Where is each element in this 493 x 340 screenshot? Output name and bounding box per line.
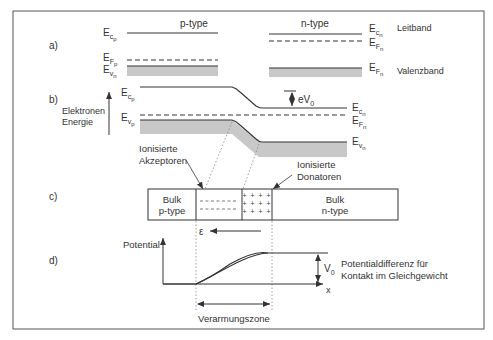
n-ec-label: Ecn [369, 23, 383, 38]
ecp-label: Ecp [121, 87, 135, 102]
label-d: d) [49, 255, 58, 266]
bulk-p-label-1: Bulk [163, 194, 182, 205]
efn-label: EFn [352, 115, 366, 130]
p-valence-band [127, 66, 218, 76]
field-symbol: ε [199, 226, 204, 237]
p-ec-label: Ecp [103, 27, 117, 42]
x-axis-label: x [326, 285, 331, 295]
pn-junction-diagram: a) p-type n-type Ecp EFp Evn Ecn EFn EFn… [0, 0, 493, 340]
panel-c: c) Bulk p-type Bulk n-type + + + + + + +… [49, 189, 398, 237]
n-type-title: n-type [301, 18, 329, 29]
valenzband-label: Valenzband [397, 66, 444, 76]
donatoren-label-2: Donatoren [297, 171, 341, 182]
akzeptoren-label-1: Ionisierte [139, 143, 178, 154]
n-valence-band [269, 68, 362, 77]
n-ef-label: EFn [369, 37, 383, 52]
donatoren-pointer [273, 175, 292, 189]
label-a: a) [49, 40, 58, 51]
bulk-p-label-2: p-type [159, 205, 185, 216]
bent-conduction-band [140, 87, 347, 108]
junction-block [148, 189, 398, 220]
donor-charges-row-3: + + + + [242, 208, 271, 215]
panel-a: a) p-type n-type Ecp EFp Evn Ecn EFn EFn… [49, 18, 444, 79]
evp-label: Evp [121, 112, 135, 127]
bulk-n-label-2: n-type [322, 205, 348, 216]
energy-axis-label-2: Energie [62, 117, 93, 127]
depletion-zone-label: Verarmungszone [198, 313, 270, 324]
akzeptoren-pointer [186, 160, 203, 189]
n-ev-label: EFn [369, 62, 383, 77]
donor-charges-row-1: + + + + [242, 192, 271, 199]
energy-axis-label-1: Elektronen [62, 106, 105, 116]
potential-curve [163, 252, 328, 284]
p-type-title: p-type [180, 18, 208, 29]
bulk-n-label-1: Bulk [326, 194, 345, 205]
potential-diff-desc-1: Potentialdifferenz für [341, 258, 428, 269]
label-c: c) [49, 191, 57, 202]
donor-charges-row-2: + + + + [242, 200, 271, 207]
potential-diff-desc-2: Kontakt im Gleichgewicht [341, 270, 448, 281]
panel-b: b) Elektronen Energie eV0 Ecp Evp Ecn EF… [49, 87, 366, 189]
potential-axis-label: Potential [123, 239, 160, 250]
v0-label: V0 [324, 263, 335, 276]
ev0-label: eV0 [298, 94, 314, 107]
akzeptoren-label-2: Akzeptoren [139, 155, 187, 166]
evn-label: Evn [352, 136, 366, 151]
donatoren-label-1: Ionisierte [297, 159, 336, 170]
panel-d: d) Potential x V0 Potentialdifferenz für… [49, 238, 448, 324]
outer-frame [13, 11, 484, 329]
label-b: b) [49, 94, 58, 105]
leitband-label: Leitband [397, 23, 432, 33]
